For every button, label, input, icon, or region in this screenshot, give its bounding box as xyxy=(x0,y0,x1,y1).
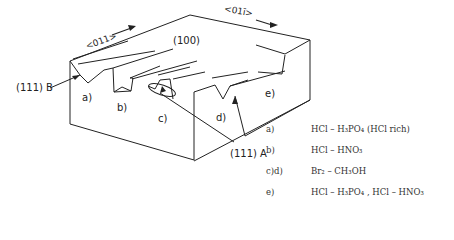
legend-row-e: e) HCl – H₃PO₄ , HCl – HNO₃ xyxy=(266,187,424,208)
legend-value: Br₂ – CH₃OH xyxy=(311,166,366,176)
legend-row-cd: c)d) Br₂ – CH₃OH xyxy=(266,166,424,187)
legend-value: HCl – H₃PO₄ , HCl – HNO₃ xyxy=(311,187,424,197)
legend-value: HCl – HNO₃ xyxy=(311,145,363,155)
face-111A-label: (111) A xyxy=(230,148,267,159)
legend-row-b: b) HCl – HNO₃ xyxy=(266,145,424,166)
face-111B-label: (111) B xyxy=(16,82,53,93)
legend-key: c)d) xyxy=(266,166,311,176)
groove-label-a: a) xyxy=(82,92,92,103)
legend-key: e) xyxy=(266,187,311,197)
legend-row-a: a) HCl – H₃PO₄ (HCl rich) xyxy=(266,124,424,145)
block-left-face xyxy=(70,61,194,160)
legend-key: a) xyxy=(266,124,311,134)
etchant-legend: a) HCl – H₃PO₄ (HCl rich) b) HCl – HNO₃ … xyxy=(266,124,424,208)
legend-value: HCl – H₃PO₄ (HCl rich) xyxy=(311,124,410,134)
groove-label-b: b) xyxy=(117,102,127,113)
groove-label-d: d) xyxy=(216,112,226,123)
groove-label-e: e) xyxy=(265,88,275,99)
legend-key: b) xyxy=(266,145,311,155)
groove-e xyxy=(258,55,285,74)
groove-label-c: c) xyxy=(158,113,167,124)
face-100-label: (100) xyxy=(173,35,200,46)
